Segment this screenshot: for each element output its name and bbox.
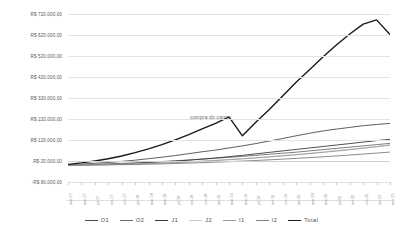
x-axis-tick-mark [336, 182, 337, 185]
gridline [68, 140, 390, 141]
legend-item-total[interactable]: Total [288, 217, 318, 223]
x-axis-tick-mark [229, 182, 230, 185]
legend-item-i2[interactable]: I2 [256, 217, 278, 223]
x-axis-tick-label: set-17 [110, 195, 114, 205]
y-axis-tick-label: R$ 420.000,00 [31, 75, 62, 80]
x-axis-tick-mark [256, 182, 257, 185]
legend-label: I2 [272, 217, 278, 223]
x-axis-tick-label: set-18 [190, 195, 194, 205]
x-axis-tick-mark [202, 182, 203, 185]
legend-label: J2 [205, 217, 212, 223]
x-axis-tick-label: jul-17 [96, 196, 100, 205]
y-axis-tick-label: R$ 520.000,00 [31, 54, 62, 59]
gridline [68, 98, 390, 99]
legend-line-icon [189, 220, 202, 221]
legend-label: O1 [101, 217, 109, 223]
y-axis: R$ 720.000,00R$ 620.000,00R$ 520.000,00R… [0, 0, 66, 210]
x-axis-tick-label: nov-17 [123, 194, 127, 205]
series-line-total [68, 20, 390, 164]
x-axis-tick-mark [122, 182, 123, 185]
x-axis-tick-mark [95, 182, 96, 185]
annotation-compra-do-carro: compra do carro [190, 114, 229, 120]
legend-line-icon [85, 220, 98, 221]
legend-item-o1[interactable]: O1 [85, 217, 109, 223]
x-axis-tick-label: mai-17 [83, 194, 87, 205]
x-axis-tick-mark [350, 182, 351, 185]
legend-item-o2[interactable]: O2 [120, 217, 144, 223]
x-axis-tick-mark [363, 182, 364, 185]
y-axis-tick-label: -R$ 80.000,00 [32, 180, 62, 185]
x-axis-tick-mark [310, 182, 311, 185]
x-axis-tick-label: jul-19 [257, 196, 261, 205]
x-axis-tick-mark [189, 182, 190, 185]
x-axis-tick-mark [162, 182, 163, 185]
legend-line-icon [288, 220, 301, 221]
y-axis-tick-label: R$ 720.000,00 [31, 12, 62, 17]
x-axis-tick-label: mar-21 [391, 193, 395, 205]
gridline [68, 119, 390, 120]
line-chart: R$ 720.000,00R$ 620.000,00R$ 520.000,00R… [0, 0, 403, 235]
x-axis-tick-label: mai-20 [324, 194, 328, 205]
gridline [68, 161, 390, 162]
y-axis-tick-label: R$ 220.000,00 [31, 117, 62, 122]
x-axis-tick-label: mar-17 [69, 193, 73, 205]
x-axis-tick-label: jan-19 [217, 195, 221, 205]
y-axis-tick-label: R$ 620.000,00 [31, 33, 62, 38]
x-axis-tick-label: nov-19 [284, 194, 288, 205]
gridline [68, 77, 390, 78]
x-axis-tick-label: mai-19 [244, 194, 248, 205]
x-axis-tick-mark [377, 182, 378, 185]
x-axis-tick-mark [81, 182, 82, 185]
legend-line-icon [256, 220, 269, 221]
x-axis-tick-label: jan-20 [297, 195, 301, 205]
x-axis-tick-mark [135, 182, 136, 185]
legend-item-j2[interactable]: J2 [189, 217, 212, 223]
x-axis-tick-label: jul-18 [177, 196, 181, 205]
x-axis-tick-label: mai-18 [163, 194, 167, 205]
x-axis-tick-mark [68, 182, 69, 185]
y-axis-tick-label: R$ 320.000,00 [31, 96, 62, 101]
legend-line-icon [155, 220, 168, 221]
x-axis-tick-mark [323, 182, 324, 185]
x-axis: mar-17mai-17jul-17set-17nov-17jan-18mar-… [68, 183, 390, 207]
legend-line-icon [223, 220, 236, 221]
x-axis-tick-label: nov-20 [365, 194, 369, 205]
gridline [68, 56, 390, 57]
legend-item-i1[interactable]: I1 [223, 217, 245, 223]
x-axis-tick-label: jul-20 [338, 196, 342, 205]
legend-line-icon [120, 220, 133, 221]
y-axis-tick-label: R$ 120.000,00 [31, 138, 62, 143]
x-axis-tick-label: nov-18 [204, 194, 208, 205]
x-axis-tick-mark [269, 182, 270, 185]
chart-legend: O1O2J1J2I1I2Total [0, 211, 403, 229]
y-axis-tick-label: R$ 20.000,00 [33, 159, 62, 164]
x-axis-tick-mark [296, 182, 297, 185]
x-axis-tick-label: mar-20 [311, 193, 315, 205]
x-axis-tick-mark [283, 182, 284, 185]
x-axis-tick-label: mar-18 [150, 193, 154, 205]
x-axis-tick-label: set-20 [351, 195, 355, 205]
x-axis-tick-mark [108, 182, 109, 185]
x-axis-tick-label: mar-19 [230, 193, 234, 205]
legend-item-j1[interactable]: J1 [155, 217, 178, 223]
plot-area [68, 14, 390, 182]
x-axis-tick-mark [175, 182, 176, 185]
x-axis-tick-mark [149, 182, 150, 185]
x-axis-tick-label: set-19 [271, 195, 275, 205]
gridline [68, 35, 390, 36]
legend-label: J1 [171, 217, 178, 223]
legend-label: Total [304, 217, 318, 223]
x-axis-tick-label: jan-18 [136, 195, 140, 205]
x-axis-tick-label: jan-21 [378, 195, 382, 205]
legend-label: O2 [136, 217, 144, 223]
gridline [68, 14, 390, 15]
legend-label: I1 [239, 217, 245, 223]
x-axis-tick-mark [216, 182, 217, 185]
x-axis-tick-mark [242, 182, 243, 185]
x-axis-tick-mark [390, 182, 391, 185]
